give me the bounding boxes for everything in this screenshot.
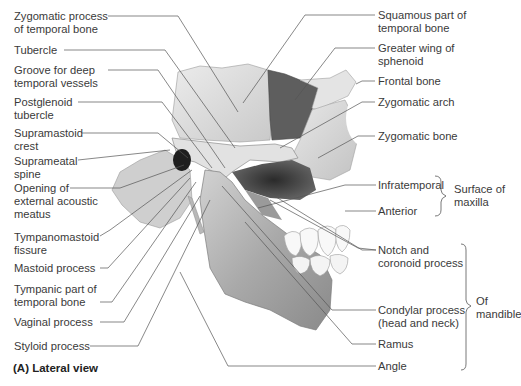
label-notch-coronoid: Notch and coronoid process	[378, 244, 463, 270]
label-ramus: Ramus	[378, 338, 413, 351]
label-zygomatic-bone: Zygomatic bone	[378, 130, 458, 143]
figure-caption: (A) Lateral view	[13, 362, 98, 374]
label-squamous-temporal: Squamous part of temporal bone	[378, 9, 466, 35]
label-zygomatic-arch: Zygomatic arch	[378, 96, 454, 109]
label-infratemporal: Infratemporal	[378, 179, 444, 192]
label-groove-deep-temporal: Groove for deep temporal vessels	[14, 64, 98, 90]
label-suprameatal-spine: Suprameatal spine	[14, 155, 77, 181]
label-tympanomastoid-fissure: Tympanomastoid fissure	[14, 231, 99, 257]
label-tympanic-part: Tympanic part of temporal bone	[14, 283, 97, 309]
label-supramastoid-crest: Supramastoid crest	[14, 127, 83, 153]
label-tubercle: Tubercle	[14, 44, 57, 57]
label-postglenoid-tubercle: Postglenoid tubercle	[14, 96, 72, 122]
label-condylar-process: Condylar process (head and neck)	[378, 304, 465, 330]
group-label-of-mandible: Of mandible	[476, 295, 521, 321]
label-mastoid-process: Mastoid process	[14, 262, 95, 275]
infratemporal-fossa	[232, 160, 316, 200]
label-greater-wing-sphenoid: Greater wing of sphenoid	[378, 42, 454, 68]
skull-lateral-view-diagram: Zygomatic process of temporal bone Tuber…	[0, 0, 521, 386]
label-vaginal-process: Vaginal process	[14, 316, 93, 329]
label-anterior: Anterior	[378, 205, 417, 218]
teeth	[284, 225, 350, 276]
label-angle: Angle	[378, 360, 407, 373]
label-styloid-process: Styloid process	[14, 340, 90, 353]
label-external-acoustic-meatus: Opening of external acoustic meatus	[14, 182, 98, 221]
label-zygomatic-process: Zygomatic process of temporal bone	[14, 10, 108, 36]
label-frontal-bone: Frontal bone	[378, 75, 441, 88]
group-label-surface-of-maxilla: Surface of maxilla	[454, 183, 505, 209]
